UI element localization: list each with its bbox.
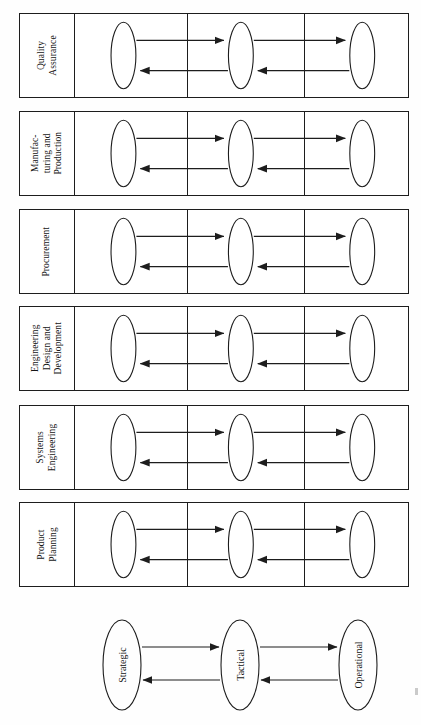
band-flow-graphic: [20, 307, 408, 390]
swimlane-band: Engineering Design and Development: [19, 306, 409, 391]
band-flow-graphic: [20, 503, 408, 586]
swimlane-band: Systems Engineering: [19, 405, 409, 490]
diagram-sheet: Quality Assurance: [0, 0, 421, 725]
swimlane-band: Manufac- turing and Production: [19, 111, 409, 196]
swimlane-band: Quality Assurance: [19, 13, 409, 98]
legend-flow-graphic: [19, 600, 409, 725]
node-label-operational: Operational: [353, 641, 364, 688]
band-flow-graphic: [20, 14, 408, 97]
band-flow-graphic: [20, 406, 408, 489]
node-label-strategic: Strategic: [117, 647, 128, 683]
swimlane-band: Product Planning: [19, 502, 409, 587]
legend-row: Strategic Tactical Operational: [19, 600, 409, 725]
swimlane-band: Procurement: [19, 209, 409, 294]
band-flow-graphic: [20, 112, 408, 195]
band-flow-graphic: [20, 210, 408, 293]
node-label-tactical: Tactical: [235, 649, 246, 681]
page-edge-artifact: [415, 688, 418, 695]
